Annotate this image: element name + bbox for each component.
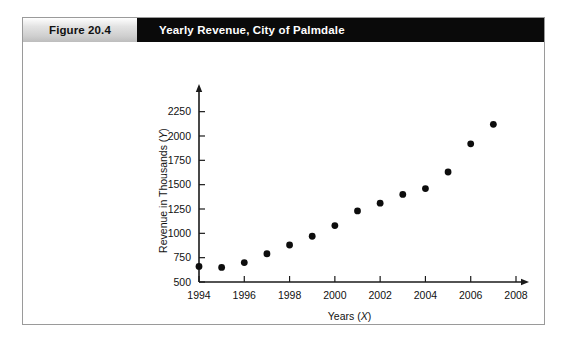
x-tick-label: 2000 bbox=[323, 289, 347, 301]
figure-number-box: Figure 20.4 bbox=[23, 18, 137, 42]
data-point bbox=[286, 242, 293, 249]
x-axis: 19941996199820002002200420062008 bbox=[187, 276, 529, 301]
y-tick-label: 1500 bbox=[168, 178, 192, 190]
y-tick-label: 1750 bbox=[168, 154, 192, 166]
figure-number-label: Figure 20.4 bbox=[49, 24, 111, 36]
y-tick-label: 2250 bbox=[168, 105, 192, 117]
data-point bbox=[264, 250, 271, 257]
x-tick-label: 2004 bbox=[414, 289, 438, 301]
x-tick-label: 2008 bbox=[504, 289, 528, 301]
y-tick-label: 1000 bbox=[168, 227, 192, 239]
x-tick-label: 2002 bbox=[368, 289, 392, 301]
x-tick-label: 1994 bbox=[187, 289, 211, 301]
x-axis-title: Years (X) bbox=[328, 310, 371, 322]
x-tick-label: 1998 bbox=[278, 289, 302, 301]
data-point bbox=[399, 191, 406, 198]
x-tick-label: 1996 bbox=[233, 289, 257, 301]
scatter-plot: 500750100012501500175020002250 199419961… bbox=[23, 42, 544, 324]
figure-container: Figure 20.4 Yearly Revenue, City of Palm… bbox=[22, 17, 545, 325]
figure-header: Figure 20.4 Yearly Revenue, City of Palm… bbox=[23, 18, 544, 42]
data-point bbox=[331, 222, 338, 229]
data-point bbox=[467, 140, 474, 147]
y-tick-label: 2000 bbox=[168, 130, 192, 142]
y-axis: 500750100012501500175020002250 bbox=[168, 84, 205, 288]
y-axis-title: Revenue in Thousands (Y) bbox=[157, 128, 169, 253]
x-tick-label: 2006 bbox=[459, 289, 483, 301]
y-axis-arrow bbox=[196, 84, 202, 92]
data-point bbox=[445, 169, 452, 176]
x-axis-arrow bbox=[521, 279, 529, 285]
data-point bbox=[241, 259, 248, 266]
y-tick-label: 750 bbox=[173, 251, 191, 263]
y-tick-label: 1250 bbox=[168, 203, 192, 215]
plot-svg: 500750100012501500175020002250 199419961… bbox=[23, 42, 544, 324]
y-tick-label: 500 bbox=[173, 276, 191, 288]
figure-title-label: Yearly Revenue, City of Palmdale bbox=[159, 24, 345, 36]
data-points bbox=[196, 121, 497, 271]
figure-title-box: Yearly Revenue, City of Palmdale bbox=[137, 18, 544, 42]
data-point bbox=[490, 121, 497, 128]
data-point bbox=[354, 208, 361, 215]
data-point bbox=[309, 233, 316, 240]
data-point bbox=[196, 263, 203, 270]
data-point bbox=[218, 264, 225, 271]
data-point bbox=[377, 200, 384, 207]
data-point bbox=[422, 185, 429, 192]
